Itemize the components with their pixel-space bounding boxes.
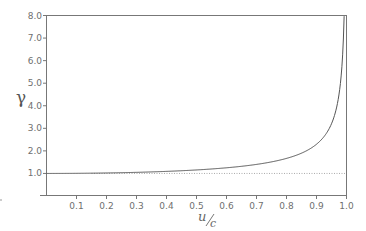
x-tick-label: 0.7 <box>249 201 263 211</box>
x-tick-label: 0.6 <box>219 201 234 211</box>
x-tick-label: 0.8 <box>279 201 294 211</box>
x-ticks: 0.10.20.30.40.50.60.70.80.91.0 <box>69 196 354 212</box>
y-tick-label: 2.0 <box>28 146 43 156</box>
plot-area: 1.02.03.04.05.06.07.08.0 0.10.20.30.40.5… <box>28 11 354 212</box>
gamma-curve <box>47 16 345 173</box>
lorentz-factor-chart: 1.02.03.04.05.06.07.08.0 0.10.20.30.40.5… <box>0 0 366 231</box>
stray-mark <box>0 199 2 201</box>
y-axis-label: γ <box>16 87 26 107</box>
x-tick-label: 0.9 <box>309 201 324 211</box>
y-tick-label: 8.0 <box>28 11 43 21</box>
x-axis-label: u c <box>198 209 216 230</box>
y-tick-label: 4.0 <box>28 101 43 111</box>
y-ticks: 1.02.03.04.05.06.07.08.0 <box>28 11 47 179</box>
x-tick-label: 0.1 <box>69 201 83 211</box>
x-label-denominator: c <box>210 217 216 230</box>
x-tick-label: 0.4 <box>159 201 174 211</box>
x-tick-label: 0.3 <box>129 201 143 211</box>
y-tick-label: 3.0 <box>28 123 43 133</box>
x-tick-label: 0.2 <box>99 201 113 211</box>
y-tick-label: 1.0 <box>28 168 43 178</box>
y-tick-label: 6.0 <box>28 56 43 66</box>
x-label-numerator: u <box>198 209 206 224</box>
y-tick-label: 5.0 <box>28 78 43 88</box>
x-tick-label: 1.0 <box>339 201 354 211</box>
y-tick-label: 7.0 <box>28 33 43 43</box>
